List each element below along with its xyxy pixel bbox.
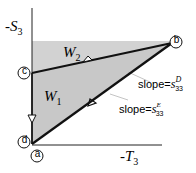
point-d-label: d [20,134,29,145]
slope-e-label: slope=sE33 [119,99,168,117]
point-b-label: b [172,34,181,45]
w1-label: W1 [44,88,62,107]
point-a-label: a [33,148,42,159]
point-c-label: c [20,65,29,76]
w2-label: W2 [63,44,81,63]
y-axis-label: -S3 [5,18,23,37]
slope-d-label: slope=sD33 [138,74,189,92]
x-axis-label: -T3 [120,148,138,167]
